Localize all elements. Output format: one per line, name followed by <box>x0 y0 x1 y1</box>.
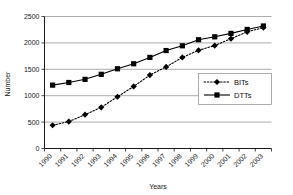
datapoint-dtts-1991 <box>66 80 71 85</box>
datapoint-dtts-1990 <box>50 83 55 88</box>
datapoint-bits-1999 <box>195 47 201 53</box>
chart-legend: BITsDTTs <box>199 74 272 105</box>
datapoint-bits-1994 <box>114 94 120 100</box>
x-tick-label-1990: 1990 <box>37 152 53 168</box>
chart-canvas: 05001000150020002500 1990199119921993199… <box>0 0 293 195</box>
datapoint-dtts-1997 <box>164 48 169 53</box>
x-tick-label-1993: 1993 <box>86 152 102 168</box>
datapoint-bits-2000 <box>212 42 218 48</box>
x-tick-label-1997: 1997 <box>151 152 167 168</box>
legend-label-dtts: DTTs <box>234 91 252 100</box>
y-tick-label-1000: 1000 <box>24 92 40 99</box>
datapoint-bits-1993 <box>98 104 104 110</box>
x-tick-label-2003: 2003 <box>248 152 264 168</box>
datapoint-dtts-1993 <box>99 72 104 77</box>
legend-square-marker <box>214 92 219 97</box>
x-tick-label-1998: 1998 <box>167 152 183 168</box>
datapoint-bits-1996 <box>147 72 153 78</box>
y-tick-label-2500: 2500 <box>24 13 40 20</box>
y-axis-title: Number <box>4 71 11 97</box>
datapoint-bits-1991 <box>66 118 72 124</box>
y-axis-tick-labels-group: 05001000150020002500 <box>24 13 40 152</box>
datapoint-dtts-1999 <box>196 37 201 42</box>
y-tick-label-0: 0 <box>36 145 40 152</box>
x-axis-title: Years <box>149 183 167 190</box>
datapoint-bits-2001 <box>228 36 234 42</box>
datapoint-dtts-2001 <box>228 31 233 36</box>
x-tick-label-2000: 2000 <box>199 152 215 168</box>
x-tick-label-1996: 1996 <box>135 152 151 168</box>
datapoint-dtts-1995 <box>131 61 136 66</box>
x-tick-label-1994: 1994 <box>102 152 118 168</box>
datapoint-dtts-1996 <box>147 55 152 60</box>
x-axis-tick-labels-group: 1990199119921993199419951996199719981999… <box>37 152 264 168</box>
legend-label-bits: BITs <box>234 78 249 87</box>
y-tick-label-2000: 2000 <box>24 39 40 46</box>
datapoint-dtts-1994 <box>115 66 120 71</box>
datapoint-bits-1998 <box>179 54 185 60</box>
x-tick-label-1999: 1999 <box>183 152 199 168</box>
datapoint-bits-1990 <box>50 122 56 128</box>
datapoint-dtts-2000 <box>212 34 217 39</box>
datapoint-dtts-1998 <box>180 43 185 48</box>
x-tick-label-1995: 1995 <box>118 152 134 168</box>
line-chart: 05001000150020002500 1990199119921993199… <box>0 0 293 195</box>
x-tick-label-1991: 1991 <box>54 152 70 168</box>
x-tick-label-2002: 2002 <box>232 152 248 168</box>
datapoint-dtts-1992 <box>82 77 87 82</box>
x-tick-label-1992: 1992 <box>70 152 86 168</box>
y-tick-label-1500: 1500 <box>24 66 40 73</box>
y-tick-label-500: 500 <box>28 119 40 126</box>
x-tick-label-2001: 2001 <box>216 152 232 168</box>
datapoint-bits-1992 <box>82 112 88 118</box>
